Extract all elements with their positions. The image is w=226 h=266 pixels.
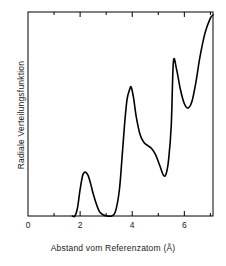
radial-distribution-chart: Abstand vom Referenzatom (Å) Radiale Ver… bbox=[0, 0, 226, 266]
x-tick-label: 0 bbox=[20, 220, 36, 230]
y-axis-title: Radiale Verteilungsfunktion bbox=[16, 30, 26, 200]
x-tick-label: 2 bbox=[72, 220, 88, 230]
x-axis-title: Abstand vom Referenzatom (Å) bbox=[0, 243, 226, 253]
x-tick-label: 6 bbox=[176, 220, 192, 230]
x-tick-label: 4 bbox=[124, 220, 140, 230]
